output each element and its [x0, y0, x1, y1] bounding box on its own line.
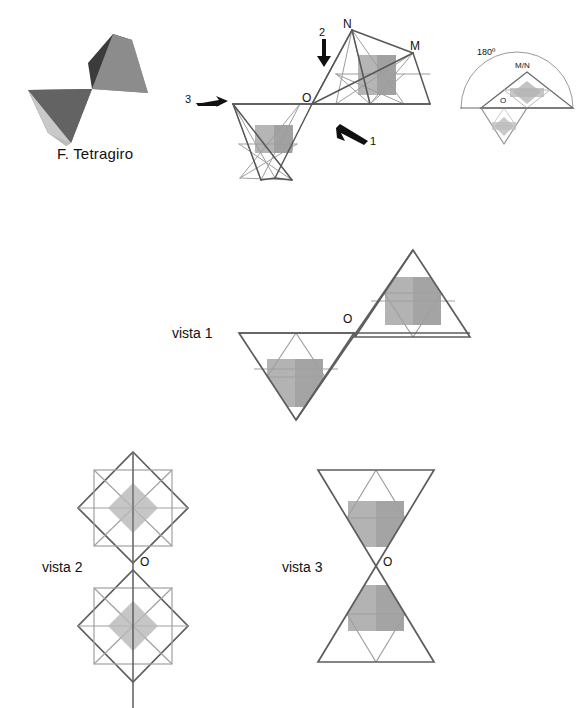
vista-2-drawing	[78, 452, 188, 708]
point-label-mn: M/N	[515, 62, 530, 70]
v1-triangle-down	[239, 333, 354, 420]
point-label-m: M	[410, 40, 420, 52]
vista-3-label: vista 3	[282, 560, 322, 574]
v3-triangle-up	[318, 470, 434, 566]
tetra-lower-left	[233, 104, 312, 180]
v1-triangle-up	[355, 250, 470, 337]
vista-3-drawing	[318, 470, 434, 662]
vista-1-label: vista 1	[172, 326, 212, 340]
diagram-canvas	[0, 0, 583, 708]
top-perspective-diagram	[196, 30, 430, 180]
point-label-o-top: O	[302, 92, 311, 104]
vista-1-drawing	[239, 250, 470, 420]
point-label-o-rot: O	[500, 97, 506, 105]
arrow-3-label: 3	[185, 94, 191, 105]
point-label-n: N	[343, 18, 352, 30]
rot-triangle-down	[481, 108, 527, 144]
v3-triangle-down	[318, 566, 434, 662]
diagram-page: F. Tetragiro 2 1 3 N M O 180º M/N O vist…	[0, 0, 583, 708]
arrow-3-icon	[196, 96, 228, 107]
vista-2-label: vista 2	[42, 560, 82, 574]
rotation-angle-label: 180º	[477, 48, 495, 57]
arrow-2-label: 2	[319, 27, 325, 38]
arrow-1-label: 1	[370, 136, 376, 147]
point-label-o-vista2: O	[140, 556, 149, 568]
figure-title: F. Tetragiro	[57, 146, 133, 161]
point-label-o-vista3: O	[383, 556, 392, 568]
tetragiro-solid-icon	[28, 34, 148, 146]
arrow-1-icon	[336, 124, 368, 145]
rot-triangle-up	[481, 72, 573, 108]
point-label-o-vista1: O	[343, 313, 352, 325]
arrow-2-icon	[317, 39, 331, 67]
